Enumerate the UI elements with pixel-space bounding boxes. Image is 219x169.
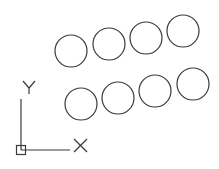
ucs-icon xyxy=(17,81,88,155)
circle-top-2[interactable] xyxy=(93,28,125,60)
circle-bottom-4[interactable] xyxy=(177,68,209,100)
circle-bottom-3[interactable] xyxy=(139,75,171,107)
ucs-x-label-glyph xyxy=(74,139,87,152)
ucs-y-label-glyph xyxy=(23,81,35,94)
circle-top-3[interactable] xyxy=(130,22,162,54)
cad-drawing-canvas[interactable]: X Y xyxy=(0,0,219,169)
circle-array xyxy=(55,15,209,120)
circle-bottom-1[interactable] xyxy=(65,88,97,120)
circle-top-4[interactable] xyxy=(167,15,199,47)
circle-top-1[interactable] xyxy=(55,35,87,67)
circle-bottom-2[interactable] xyxy=(102,82,134,114)
